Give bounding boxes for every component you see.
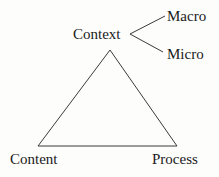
context-label: Context [73,27,121,42]
micro-label: Micro [167,47,204,62]
context-to-macro-line [130,16,165,34]
macro-label: Macro [167,9,206,24]
context-content-process-triangle [38,50,177,146]
diagram-canvas: Context Macro Micro Content Process [0,0,219,177]
content-label: Content [10,152,58,167]
context-to-micro-line [130,34,163,52]
process-label: Process [152,152,198,167]
